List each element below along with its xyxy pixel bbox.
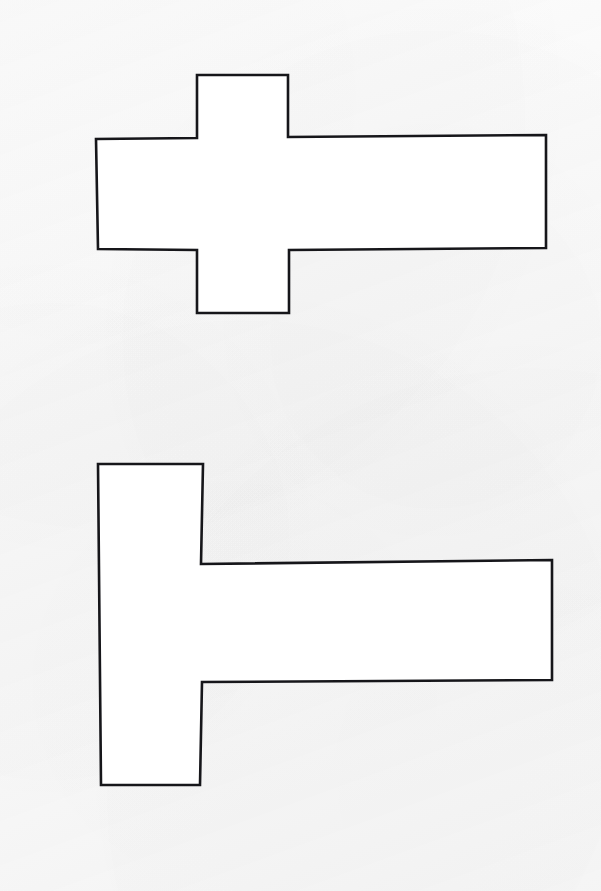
cross-shape-with-long-right-arm <box>96 75 546 313</box>
t-shape-rotated-left-stem <box>98 464 552 785</box>
figure-canvas <box>0 0 601 891</box>
